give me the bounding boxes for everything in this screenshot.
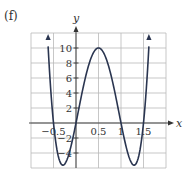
curve-arrow-icon (146, 34, 151, 40)
curve-arrow-icon (46, 34, 51, 40)
panel-label: (f) (4, 9, 18, 23)
y-tick-label: 2 (66, 103, 72, 114)
tick-labels: −0.50.511.5108642−2−4 (41, 43, 151, 159)
x-tick-label: 0.5 (91, 126, 107, 137)
y-axis-arrow-icon (74, 26, 79, 32)
x-axis-arrow-icon (168, 121, 174, 126)
y-tick-label: 4 (66, 88, 72, 99)
y-tick-label: −2 (57, 133, 72, 144)
y-tick-label: 10 (59, 43, 72, 54)
x-axis-label: x (176, 117, 183, 130)
y-tick-label: 8 (66, 58, 72, 69)
y-axis-label: y (72, 12, 80, 25)
y-tick-label: 6 (66, 73, 72, 84)
chart-figure: (f) −0.50.511.5108642−2−4 x y (0, 0, 185, 179)
